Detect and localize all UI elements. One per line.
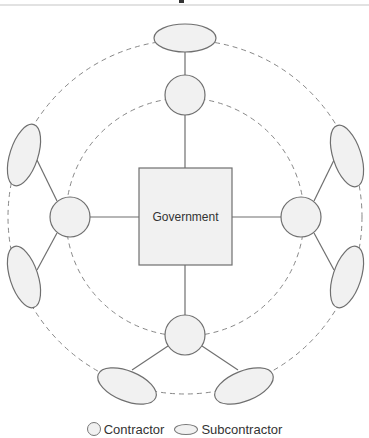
legend: Contractor Subcontractor [0,420,369,438]
legend-subcontractor-label: Subcontractor [201,422,282,437]
diagram-canvas: Government Contractor Subcontractor [0,0,369,438]
subcontractor-lower-right [324,242,369,312]
contractor-swatch-icon [87,422,101,436]
legend-subcontractor: Subcontractor [174,422,282,437]
subcontractor-swatch-icon [174,424,198,435]
contractor-right [281,197,321,237]
contractor-bottom [165,315,205,355]
contractor-left [50,197,90,237]
legend-contractor-label: Contractor [104,422,165,437]
subcontractor-bottom-left [93,360,162,411]
contractor-top [165,75,205,115]
government-label: Government [152,210,219,224]
subcontractor-top [154,24,216,52]
subcontractor-upper-right [324,121,369,191]
legend-contractor: Contractor [87,422,165,437]
subcontractor-lower-left [1,242,47,312]
subcontractor-bottom-right [210,360,279,411]
subcontractor-upper-left [1,120,47,190]
